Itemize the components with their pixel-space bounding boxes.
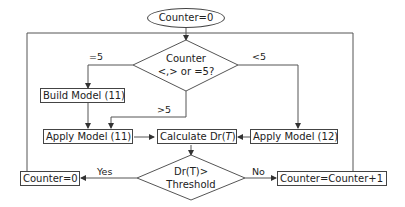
apply-model-11-box: Apply Model (11) <box>43 129 133 144</box>
counter-decision-line1: Counter <box>146 52 226 65</box>
calculate-prefix: Calculate Dr( <box>160 131 226 142</box>
counter-decision-line2: <,> or =5? <box>146 65 226 78</box>
build-model-box: Build Model (11) <box>40 88 125 103</box>
no-label: No <box>252 166 265 177</box>
reset-counter-box: Counter=0 <box>20 171 80 186</box>
branch-label-lt5: <5 <box>252 51 266 62</box>
counter-decision: Counter <,> or =5? <box>146 52 226 78</box>
start-label: Counter=0 <box>159 12 214 23</box>
yes-label: Yes <box>97 166 112 177</box>
apply-model-12-box: Apply Model (12) <box>250 129 338 144</box>
start-counter-oval: Counter=0 <box>147 8 225 28</box>
threshold-decision-line1: Dr(T)> <box>151 165 231 178</box>
threshold-decision-line2: Threshold <box>151 178 231 191</box>
branch-label-gt5: >5 <box>157 104 171 115</box>
branch-label-eq5: =5 <box>89 51 103 62</box>
calculate-suffix: ) <box>232 131 236 142</box>
increment-counter-box: Counter=Counter+1 <box>277 171 387 186</box>
calculate-box: Calculate Dr(T) <box>157 129 237 144</box>
threshold-decision: Dr(T)> Threshold <box>151 165 231 191</box>
